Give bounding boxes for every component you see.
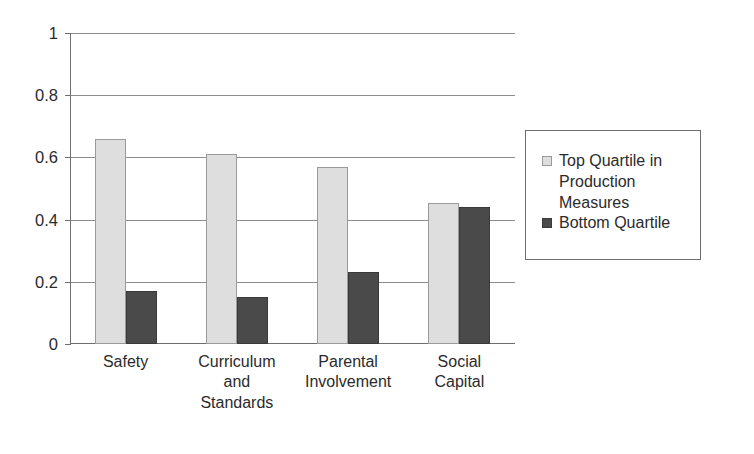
bar[interactable] xyxy=(126,291,157,344)
legend-item[interactable]: Top Quartile in Production Measures xyxy=(542,151,700,213)
legend-swatch-bottom-quartile-icon xyxy=(542,218,552,228)
bar[interactable] xyxy=(237,297,268,344)
bar[interactable] xyxy=(95,139,126,344)
legend-swatch-top-quartile-icon xyxy=(542,156,552,166)
x-axis-category-label: Parental Involvement xyxy=(293,352,404,393)
bar-group xyxy=(317,33,379,344)
chart-legend: Top Quartile in Production MeasuresBotto… xyxy=(525,130,701,260)
x-axis-category-label: Safety xyxy=(70,352,181,372)
legend-label: Top Quartile in Production Measures xyxy=(559,151,700,213)
y-axis-labels: 00.20.40.60.81 xyxy=(0,0,58,454)
bar-groups-layer xyxy=(70,33,515,344)
bar-group xyxy=(428,33,490,344)
y-axis-tick-label: 0.4 xyxy=(35,212,58,229)
bar-group xyxy=(95,33,157,344)
y-axis-tick-label: 1 xyxy=(49,25,58,42)
bar-group xyxy=(206,33,268,344)
bar[interactable] xyxy=(428,203,459,345)
y-axis-tick-label: 0.6 xyxy=(35,149,58,166)
bar[interactable] xyxy=(348,272,379,344)
bar[interactable] xyxy=(206,154,237,344)
bar-chart: 00.20.40.60.81 SafetyCurriculum and Stan… xyxy=(0,0,754,454)
x-axis-category-label: Social Capital xyxy=(404,352,515,393)
y-axis-tick-label: 0 xyxy=(49,336,58,353)
legend-label: Bottom Quartile xyxy=(559,213,670,234)
bar[interactable] xyxy=(459,207,490,344)
y-axis-tick-label: 0.2 xyxy=(35,274,58,291)
y-axis-tick-label: 0.8 xyxy=(35,87,58,104)
x-axis-category-labels: SafetyCurriculum and StandardsParental I… xyxy=(70,352,515,452)
y-axis-tick xyxy=(65,344,71,345)
x-axis-category-label: Curriculum and Standards xyxy=(181,352,292,413)
bar[interactable] xyxy=(317,167,348,344)
legend-item[interactable]: Bottom Quartile xyxy=(542,213,670,234)
